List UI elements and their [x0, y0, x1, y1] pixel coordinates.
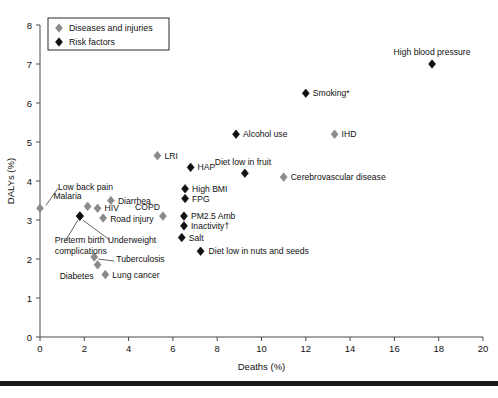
data-point-marker	[331, 130, 338, 139]
x-tick-label: 16	[389, 343, 400, 354]
data-point-marker	[187, 163, 194, 172]
data-point-marker	[180, 222, 187, 231]
point-label: Salt	[189, 233, 204, 243]
point-label: Tuberculosis	[116, 254, 164, 264]
point-label: Diet low in fruit	[215, 157, 272, 167]
point-label: Preterm birth	[55, 235, 105, 245]
data-point-marker	[100, 214, 107, 223]
point-label: Cerebrovascular disease	[291, 172, 386, 182]
legend-label: Risk factors	[69, 37, 116, 47]
y-tick-label: 2	[27, 254, 32, 265]
point-label: Diabetes	[60, 271, 94, 281]
point-label: Lung cancer	[112, 270, 159, 280]
data-point-marker	[182, 185, 189, 194]
data-point-marker	[154, 151, 161, 160]
point-label: complications	[55, 246, 107, 256]
data-point-marker	[178, 233, 185, 242]
y-tick-label: 0	[27, 332, 32, 343]
x-tick-label: 2	[82, 343, 87, 354]
data-point-marker	[280, 173, 287, 182]
y-tick-label: 7	[27, 59, 32, 70]
y-tick-label: 6	[27, 98, 32, 109]
data-point-marker	[102, 270, 109, 279]
point-label: High BMI	[192, 184, 227, 194]
label-leader-line	[98, 259, 114, 261]
data-point-marker	[197, 247, 204, 256]
data-point-marker	[429, 60, 436, 69]
x-axis-title: Deaths (%)	[238, 361, 286, 372]
point-label: FPG	[192, 194, 210, 204]
data-point-marker	[159, 212, 166, 221]
x-tick-label: 0	[37, 343, 42, 354]
data-point-marker	[180, 212, 187, 221]
x-tick-label: 6	[170, 343, 175, 354]
scatter-chart: 02468101214161820012345678Deaths (%)DALY…	[0, 0, 498, 398]
x-tick-label: 14	[345, 343, 356, 354]
x-tick-label: 20	[478, 343, 489, 354]
data-point-marker	[233, 130, 240, 139]
data-point-marker	[84, 202, 91, 211]
legend-label: Diseases and injuries	[69, 23, 153, 33]
data-point-marker	[94, 204, 101, 213]
data-point-marker	[94, 261, 101, 270]
data-point-marker	[76, 212, 83, 221]
y-tick-label: 5	[27, 137, 32, 148]
data-point-marker	[36, 204, 43, 213]
point-labels-group: Low back painMalariaDiarrheaHIVRoad inju…	[53, 47, 470, 281]
y-tick-label: 4	[27, 176, 32, 187]
y-tick-label: 8	[27, 20, 32, 31]
y-tick-label: 1	[27, 293, 32, 304]
y-tick-label: 3	[27, 215, 32, 226]
x-tick-label: 12	[301, 343, 312, 354]
y-axis-title: DALYs (%)	[5, 158, 16, 204]
point-label: IHD	[342, 129, 357, 139]
point-label: Inactivity†	[191, 221, 229, 231]
x-tick-label: 18	[433, 343, 444, 354]
point-label: HIV	[105, 203, 120, 213]
point-label: HAP	[198, 162, 216, 172]
point-label: High blood pressure	[394, 47, 471, 57]
point-label: Diet low in nuts and seeds	[209, 246, 309, 256]
point-label: LRI	[164, 151, 177, 161]
data-point-marker	[241, 169, 248, 178]
point-label: Road injury	[110, 214, 154, 224]
point-label: Alcohol use	[243, 129, 288, 139]
x-tick-label: 10	[256, 343, 267, 354]
x-tick-label: 4	[126, 343, 131, 354]
point-label: Smoking*	[313, 88, 350, 98]
point-label: COPD	[135, 202, 160, 212]
data-point-marker	[302, 89, 309, 98]
x-tick-label: 8	[215, 343, 220, 354]
point-label: Malaria	[53, 191, 81, 201]
point-label: Underweight	[108, 235, 157, 245]
data-point-marker	[182, 194, 189, 203]
point-label: PM2.5 Amb	[191, 211, 236, 221]
plot-area: 02468101214161820012345678Deaths (%)DALY…	[0, 0, 498, 398]
chart-legend: Diseases and injuriesRisk factors	[48, 18, 169, 50]
bottom-rule	[0, 381, 498, 386]
